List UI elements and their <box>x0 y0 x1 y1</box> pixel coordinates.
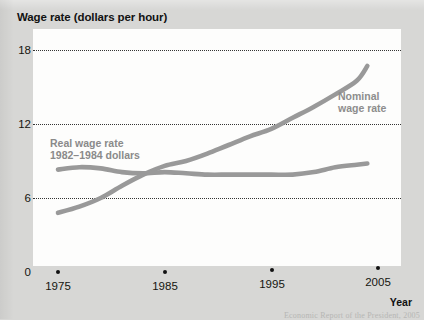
series-label-real: Real wage rate 1982–1984 dollars <box>50 138 140 161</box>
chart-title: Wage rate (dollars per hour) <box>17 11 167 23</box>
y-tick-12: 12 <box>3 118 31 130</box>
x-tick-dot-2005 <box>376 266 380 270</box>
line-real-wage-rate <box>58 164 367 175</box>
x-tick-label-2005: 2005 <box>365 276 391 288</box>
series-label-nominal-line1: Nominal <box>338 90 379 102</box>
series-label-nominal-line2: wage rate <box>338 102 386 114</box>
x-tick-dot-1975 <box>56 270 60 274</box>
y-tick-6: 6 <box>3 192 31 204</box>
series-label-real-line1: Real wage rate <box>50 137 124 149</box>
x-axis-name: Year <box>390 296 412 308</box>
x-tick-dot-1995 <box>270 268 274 272</box>
x-tick-label-1975: 1975 <box>45 280 71 292</box>
x-tick-label-1995: 1995 <box>259 278 285 290</box>
y-axis: 18 12 6 0 <box>0 0 31 319</box>
y-tick-18: 18 <box>3 44 31 56</box>
y-tick-0: 0 <box>3 266 31 278</box>
plot-area: Nominal wage rate Real wage rate 1982–19… <box>33 29 401 266</box>
source-note: Economic Report of the President, 2005 <box>284 311 420 320</box>
series-label-nominal: Nominal wage rate <box>338 91 386 114</box>
x-tick-dot-1985 <box>163 270 167 274</box>
series-label-real-line2: 1982–1984 dollars <box>50 149 140 161</box>
x-tick-label-1985: 1985 <box>152 280 178 292</box>
